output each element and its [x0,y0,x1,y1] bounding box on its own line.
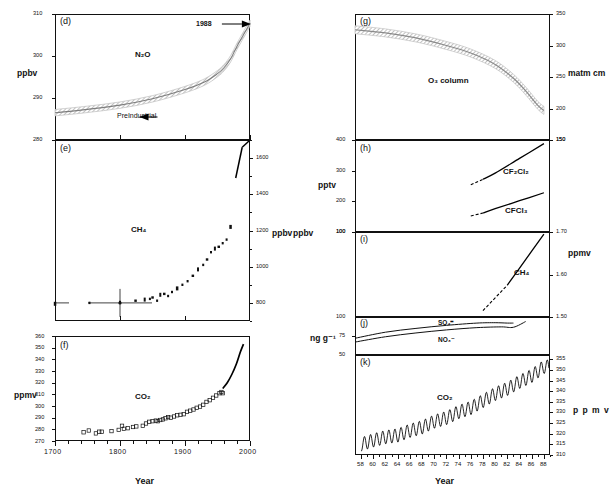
tick-label: 800 [256,299,265,305]
tick-mark [465,455,466,457]
tick-mark [250,158,252,159]
tick-label: 330 [35,368,44,374]
tick-mark [501,455,502,457]
tick-label: 1800 [109,448,127,455]
tick-mark [352,140,355,141]
tick-mark [52,394,55,395]
tick-mark [550,423,553,424]
tick-label: 75 [339,332,345,338]
tick-label: 1700 [44,448,62,455]
tick-label: 335 [556,398,565,404]
tick-label: 290 [33,94,42,100]
tick-mark [446,455,447,457]
tick-label: 300 [35,403,44,409]
tick-label: 1400 [256,190,268,196]
tick-mark [185,135,186,140]
tick-mark [224,441,225,444]
tick-label: 300 [33,52,42,58]
tick-mark [550,412,553,413]
tick-mark [146,441,147,444]
tick-mark [550,370,553,371]
tick-mark [520,455,521,457]
tick-mark [250,285,252,286]
tick-mark [513,455,514,457]
tick-mark [398,455,399,457]
tick-label: 100 [336,228,345,234]
tick-label: 200 [556,105,565,111]
tick-mark [250,303,252,304]
figure-root: (d) N₂O ppbv 1988 PreIndustrial (e) CH₄ … [0,0,612,501]
tick-label: 320 [556,430,565,436]
tick-mark [550,77,553,78]
tick-label: 300 [556,42,565,48]
tick-label: 150 [556,136,565,142]
tick-mark [52,371,55,372]
tick-mark [459,455,460,457]
tick-mark [52,359,55,360]
tick-label: 74 [455,461,462,467]
tick-mark [52,98,55,99]
tick-mark [550,46,553,47]
tick-mark [185,441,186,446]
tick-label: 310 [556,451,565,457]
tick-mark [550,359,553,360]
tick-label: 80 [491,461,498,467]
tick-label: 340 [35,356,44,362]
tick-label: 350 [556,10,565,16]
tick-mark [550,381,553,382]
tick-mark [385,455,386,457]
tick-mark [250,212,252,213]
tick-mark [250,249,252,250]
tick-label: 1600 [256,154,268,160]
tick-mark [211,441,212,444]
tick-mark [550,317,553,318]
tick-label: 290 [35,414,44,420]
tick-mark [416,455,417,457]
tick-label: 88 [540,461,547,467]
tick-mark [250,176,252,177]
tick-mark [185,316,186,321]
tick-label: 58 [357,461,364,467]
tick-label: 350 [556,366,565,372]
tick-label: 200 [336,197,345,203]
tick-label: 1900 [174,448,192,455]
tick-mark [352,171,355,172]
tick-mark [453,455,454,457]
tick-mark [526,455,527,457]
tick-mark [81,441,82,444]
tick-label: 300 [336,167,345,173]
tick-label: 350 [35,344,44,350]
tick-mark [483,455,484,457]
tick-mark [367,455,368,457]
tick-label: 82 [503,461,510,467]
tick-mark [532,455,533,457]
tick-mark [544,455,545,457]
tick-label: 1.50 [556,313,567,319]
tick-label: 345 [556,377,565,383]
tick-mark [352,336,355,337]
tick-mark [120,316,121,321]
tick-label: 84 [516,461,523,467]
tick-mark [550,391,553,392]
plot-curves [0,0,612,501]
tick-label: 1.60 [556,271,567,277]
tick-label: 86 [528,461,535,467]
tick-label: 50 [339,351,345,357]
tick-mark [172,441,173,444]
tick-label: 60 [369,461,376,467]
tick-mark [550,402,553,403]
tick-label: 250 [556,73,565,79]
tick-label: 62 [381,461,388,467]
tick-mark [250,321,252,322]
tick-mark [55,441,56,446]
tick-mark [550,232,553,233]
tick-label: 70 [430,461,437,467]
tick-label: 310 [33,10,42,16]
tick-mark [392,455,393,457]
tick-mark [133,441,134,444]
tick-mark [404,455,405,457]
tick-mark [550,434,553,435]
tick-label: 76 [467,461,474,467]
tick-label: 1200 [256,227,268,233]
tick-label: 400 [336,136,345,142]
